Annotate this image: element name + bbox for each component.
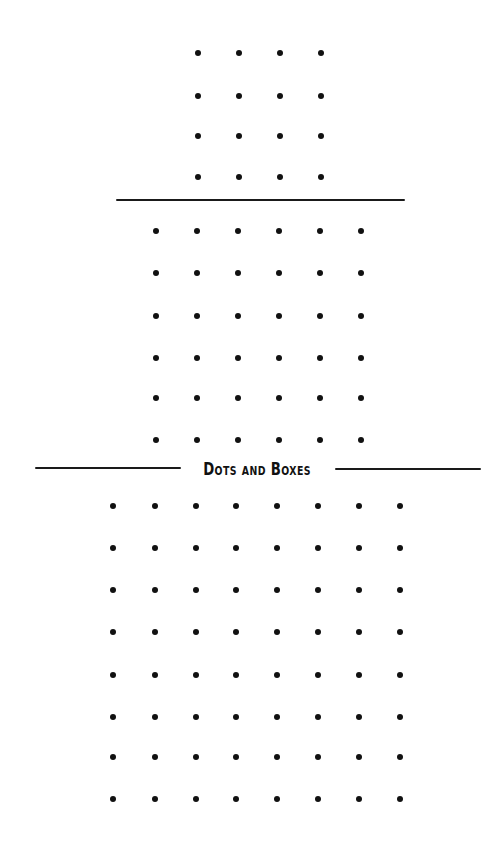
grid-dot[interactable] (153, 437, 159, 443)
grid-dot[interactable] (153, 228, 159, 234)
grid-dot[interactable] (152, 796, 158, 802)
grid-dot[interactable] (235, 228, 241, 234)
grid-dot[interactable] (317, 437, 323, 443)
grid-dot[interactable] (358, 228, 364, 234)
grid-dot[interactable] (193, 503, 199, 509)
grid-dot[interactable] (233, 796, 239, 802)
grid-dot[interactable] (315, 672, 321, 678)
grid-dot[interactable] (235, 355, 241, 361)
grid-dot[interactable] (358, 437, 364, 443)
grid-dot[interactable] (318, 93, 324, 99)
grid-dot[interactable] (356, 796, 362, 802)
grid-dot[interactable] (194, 437, 200, 443)
grid-dot[interactable] (317, 270, 323, 276)
grid-dot[interactable] (356, 587, 362, 593)
grid-dot[interactable] (317, 395, 323, 401)
grid-dot[interactable] (233, 629, 239, 635)
grid-dot[interactable] (235, 437, 241, 443)
grid-dot[interactable] (193, 629, 199, 635)
grid-dot[interactable] (233, 754, 239, 760)
grid-dot[interactable] (235, 313, 241, 319)
grid-dot[interactable] (235, 270, 241, 276)
grid-dot[interactable] (274, 754, 280, 760)
grid-dot[interactable] (318, 50, 324, 56)
grid-dot[interactable] (152, 503, 158, 509)
grid-dot[interactable] (233, 545, 239, 551)
grid-dot[interactable] (276, 270, 282, 276)
grid-dot[interactable] (277, 50, 283, 56)
grid-dot[interactable] (277, 174, 283, 180)
grid-dot[interactable] (315, 714, 321, 720)
grid-dot[interactable] (358, 270, 364, 276)
grid-dot[interactable] (110, 754, 116, 760)
grid-dot[interactable] (110, 796, 116, 802)
grid-dot[interactable] (194, 355, 200, 361)
grid-dot[interactable] (195, 93, 201, 99)
grid-dot[interactable] (274, 629, 280, 635)
grid-dot[interactable] (110, 672, 116, 678)
grid-dot[interactable] (236, 133, 242, 139)
grid-dot[interactable] (318, 174, 324, 180)
grid-dot[interactable] (397, 503, 403, 509)
grid-dot[interactable] (356, 672, 362, 678)
grid-dot[interactable] (110, 503, 116, 509)
grid-dot[interactable] (110, 714, 116, 720)
grid-dot[interactable] (358, 313, 364, 319)
grid-dot[interactable] (315, 629, 321, 635)
grid-dot[interactable] (193, 754, 199, 760)
grid-dot[interactable] (233, 587, 239, 593)
grid-dot[interactable] (397, 629, 403, 635)
grid-dot[interactable] (274, 672, 280, 678)
grid-dot[interactable] (152, 587, 158, 593)
grid-dot[interactable] (110, 587, 116, 593)
grid-dot[interactable] (274, 714, 280, 720)
grid-dot[interactable] (153, 355, 159, 361)
grid-dot[interactable] (110, 629, 116, 635)
grid-dot[interactable] (397, 796, 403, 802)
grid-dot[interactable] (397, 545, 403, 551)
grid-dot[interactable] (276, 395, 282, 401)
grid-dot[interactable] (356, 545, 362, 551)
grid-dot[interactable] (193, 796, 199, 802)
grid-dot[interactable] (236, 93, 242, 99)
grid-dot[interactable] (274, 545, 280, 551)
grid-dot[interactable] (194, 395, 200, 401)
grid-dot[interactable] (194, 228, 200, 234)
grid-dot[interactable] (193, 587, 199, 593)
grid-dot[interactable] (274, 796, 280, 802)
grid-dot[interactable] (317, 228, 323, 234)
grid-dot[interactable] (277, 133, 283, 139)
grid-dot[interactable] (152, 545, 158, 551)
grid-dot[interactable] (277, 93, 283, 99)
grid-dot[interactable] (356, 629, 362, 635)
grid-dot[interactable] (315, 754, 321, 760)
grid-dot[interactable] (195, 50, 201, 56)
grid-dot[interactable] (274, 503, 280, 509)
grid-dot[interactable] (315, 503, 321, 509)
grid-dot[interactable] (195, 174, 201, 180)
grid-dot[interactable] (317, 313, 323, 319)
grid-dot[interactable] (153, 270, 159, 276)
grid-dot[interactable] (397, 587, 403, 593)
grid-dot[interactable] (358, 395, 364, 401)
grid-dot[interactable] (276, 437, 282, 443)
grid-dot[interactable] (276, 228, 282, 234)
grid-dot[interactable] (356, 714, 362, 720)
grid-dot[interactable] (356, 503, 362, 509)
grid-dot[interactable] (276, 355, 282, 361)
grid-dot[interactable] (193, 672, 199, 678)
grid-dot[interactable] (236, 174, 242, 180)
grid-dot[interactable] (194, 270, 200, 276)
grid-dot[interactable] (358, 355, 364, 361)
grid-dot[interactable] (397, 754, 403, 760)
grid-dot[interactable] (315, 545, 321, 551)
grid-dot[interactable] (110, 545, 116, 551)
grid-dot[interactable] (152, 714, 158, 720)
grid-dot[interactable] (152, 672, 158, 678)
grid-dot[interactable] (276, 313, 282, 319)
grid-dot[interactable] (153, 313, 159, 319)
grid-dot[interactable] (356, 754, 362, 760)
grid-dot[interactable] (397, 714, 403, 720)
grid-dot[interactable] (318, 133, 324, 139)
grid-dot[interactable] (193, 545, 199, 551)
